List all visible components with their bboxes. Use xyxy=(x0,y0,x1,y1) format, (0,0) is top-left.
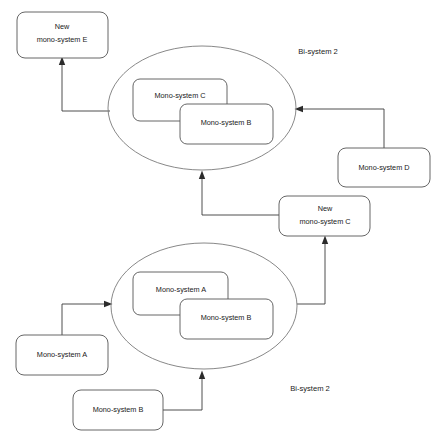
new-mono-system-e-line2: mono-system E xyxy=(37,35,88,44)
new-mono-system-c-line1: New xyxy=(318,204,333,213)
top-bisystem-label: Bi-system 2 xyxy=(298,47,338,56)
connector-mono-a-to-bottomellipse xyxy=(62,301,113,335)
bottom-inner-box-front[interactable]: Mono-system B xyxy=(180,299,273,339)
node-mono-system-a-external[interactable]: Mono-system A xyxy=(16,335,108,375)
new-mono-system-e-line1: New xyxy=(55,22,70,31)
mono-system-b-external-label: Mono-system B xyxy=(93,405,144,414)
node-mono-system-b-external[interactable]: Mono-system B xyxy=(73,390,163,430)
connector-new-mono-c-to-topellipse xyxy=(199,171,279,216)
mono-system-a-external-label: Mono-system A xyxy=(37,350,87,359)
node-new-mono-system-c[interactable]: New mono-system C xyxy=(279,196,370,236)
diagram-svg: Bi-system 2 Mono-system C Mono-system B … xyxy=(0,0,438,440)
node-mono-system-d[interactable]: Mono-system D xyxy=(338,148,430,187)
bottom-bisystem-label: Bi-system 2 xyxy=(290,384,330,393)
connector-bottomellipse-to-new-mono-c xyxy=(297,236,328,305)
connector-mono-d-to-topellipse xyxy=(295,106,385,148)
new-mono-system-c-line2: mono-system C xyxy=(299,217,350,226)
bottom-inner-box-front-label: Mono-system B xyxy=(201,313,252,322)
bottom-inner-box-back-label: Mono-system A xyxy=(156,285,206,294)
connector-topellipse-to-new-mono-e xyxy=(59,57,110,112)
mono-system-d-label: Mono-system D xyxy=(358,163,409,172)
bottom-bisystem-group: Bi-system 2 Mono-system A Mono-system B xyxy=(111,243,330,393)
top-inner-box-front-label: Mono-system B xyxy=(201,118,252,127)
connector-mono-b-to-bottomellipse xyxy=(163,371,205,411)
node-new-mono-system-e[interactable]: New mono-system E xyxy=(17,12,108,58)
diagram-canvas: Bi-system 2 Mono-system C Mono-system B … xyxy=(0,0,438,440)
top-bisystem-group: Bi-system 2 Mono-system C Mono-system B xyxy=(108,46,338,170)
top-inner-box-back-label: Mono-system C xyxy=(154,91,205,100)
top-inner-box-front[interactable]: Mono-system B xyxy=(180,104,273,144)
